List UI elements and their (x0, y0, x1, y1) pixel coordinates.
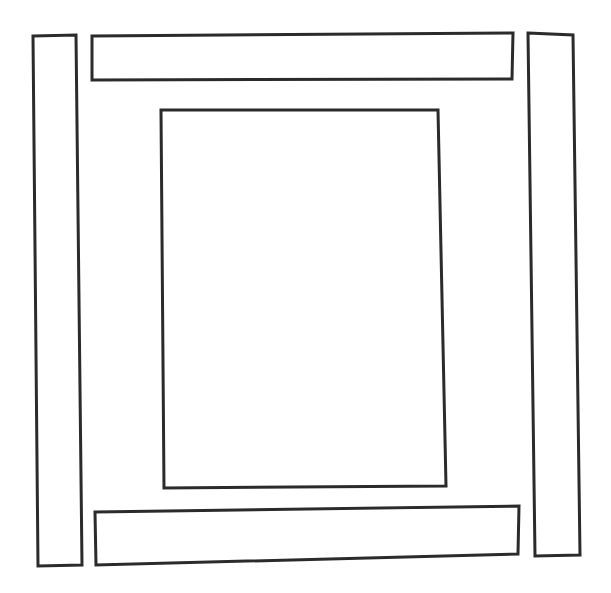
figure-canvas (0, 0, 611, 593)
center-rect-shape (161, 110, 446, 488)
right-bar-shape (528, 33, 580, 556)
top-bar-shape (92, 33, 513, 80)
left-bar-shape (33, 35, 82, 566)
pinwheel-frame-diagram (0, 0, 611, 593)
bottom-bar-shape (95, 506, 519, 565)
